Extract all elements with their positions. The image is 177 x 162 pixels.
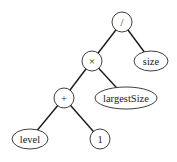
node-size: size [134,51,168,71]
node-one: 1 [90,129,110,149]
node-label: / [121,17,124,28]
node-plus: + [54,88,74,108]
node-label: + [61,93,67,104]
node-div: / [112,12,132,32]
expression-tree-diagram: /×size+largestSizelevel1 [0,0,177,162]
node-mul: × [82,51,102,71]
edges [30,22,151,139]
node-label: largestSize [103,93,149,104]
node-label: 1 [97,134,102,145]
node-level: level [12,129,48,149]
node-label: size [143,56,160,67]
node-largestSize: largestSize [95,87,157,109]
node-label: × [89,56,95,67]
node-label: level [20,134,40,145]
